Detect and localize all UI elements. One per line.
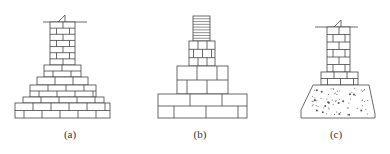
- aggregate-dot: [354, 88, 355, 89]
- aggregate-dot: [332, 99, 333, 100]
- figure-c-label: (c): [316, 128, 356, 140]
- aggregate-dot: [349, 93, 351, 95]
- brick-wall: [327, 27, 350, 72]
- aggregate-dot: [357, 108, 358, 109]
- aggregate-dot: [364, 89, 365, 90]
- aggregate-dot: [333, 89, 334, 90]
- column-outline: [193, 16, 210, 41]
- aggregate-dot: [362, 105, 363, 106]
- block-outline: [23, 97, 104, 103]
- aggregate-dot: [326, 113, 327, 114]
- aggregate-dot: [367, 100, 368, 101]
- aggregate-dot: [362, 100, 363, 101]
- aggregate-dot: [342, 100, 344, 102]
- stone-step-2: [177, 66, 228, 94]
- aggregate-dot: [336, 100, 337, 101]
- aggregate-dot: [365, 109, 366, 110]
- brick-step: [321, 72, 358, 85]
- hatched-column: [193, 16, 210, 41]
- figure-a-stepped-brick-foundation: [15, 15, 110, 118]
- aggregate-dot: [329, 108, 330, 109]
- stone-step-1: [189, 41, 215, 66]
- aggregate-dot: [340, 112, 341, 113]
- footing-step-3: [30, 85, 96, 97]
- aggregate-dot: [336, 94, 337, 95]
- aggregate-dot: [328, 107, 329, 108]
- aggregate-dot: [313, 104, 314, 105]
- aggregate-dot: [339, 90, 340, 91]
- figure-c-concrete-footing-foundation: [301, 20, 375, 118]
- aggregate-dot: [313, 101, 314, 102]
- figure-b-label: (b): [180, 128, 220, 140]
- aggregate-dot: [347, 114, 348, 115]
- aggregate-dot: [316, 89, 318, 91]
- aggregate-dot: [360, 109, 362, 111]
- footing-step-5: [15, 103, 110, 118]
- footing-step-1: [44, 65, 81, 77]
- aggregate-dot: [322, 111, 324, 113]
- aggregate-dot: [335, 101, 336, 102]
- figure-a-label: (a): [50, 128, 90, 140]
- figure-b-stone-stepped-foundation: [158, 16, 247, 118]
- aggregate-dot: [355, 95, 356, 96]
- aggregate-dot: [362, 91, 363, 92]
- aggregate-dot: [351, 92, 352, 93]
- aggregate-dot: [314, 99, 315, 100]
- aggregate-dot: [334, 93, 335, 94]
- aggregate-dot: [315, 99, 316, 100]
- brick-column: [50, 22, 75, 65]
- footing-step-4: [23, 97, 104, 103]
- aggregate-dot: [331, 88, 332, 89]
- concrete-footing: [301, 85, 375, 118]
- aggregate-dot: [333, 88, 334, 89]
- aggregate-dot: [312, 96, 313, 97]
- aggregate-dot: [324, 105, 326, 107]
- foundation-diagram: (a) (b) (c): [0, 0, 390, 154]
- aggregate-dot: [335, 93, 336, 94]
- aggregate-dot: [367, 114, 368, 115]
- aggregate-dot: [339, 99, 340, 100]
- stone-step-3: [158, 94, 247, 118]
- aggregate-dot: [361, 90, 362, 91]
- aggregate-dot: [316, 100, 317, 101]
- aggregate-dot: [338, 102, 340, 104]
- aggregate-dot: [321, 91, 323, 93]
- aggregate-dot: [321, 98, 322, 99]
- aggregate-dot: [350, 99, 351, 100]
- aggregate-dot: [338, 113, 340, 115]
- aggregate-dot: [336, 111, 337, 112]
- block-outline: [37, 77, 88, 85]
- aggregate-dot: [334, 114, 335, 115]
- aggregate-dot: [314, 97, 315, 98]
- aggregate-dot: [314, 90, 315, 91]
- aggregate-dot: [348, 114, 350, 116]
- aggregate-dot: [337, 91, 338, 92]
- aggregate-dot: [326, 99, 327, 100]
- aggregate-dot: [353, 93, 355, 95]
- aggregate-dot: [318, 106, 319, 107]
- aggregate-dot: [347, 107, 348, 108]
- footing-step-2: [37, 77, 88, 85]
- aggregate-dot: [327, 101, 329, 103]
- aggregate-dot: [364, 101, 365, 102]
- aggregate-dot: [312, 105, 313, 106]
- aggregate-dot: [363, 90, 364, 91]
- aggregate-dot: [348, 103, 349, 104]
- aggregate-dot: [323, 107, 324, 108]
- aggregate-dot: [316, 105, 317, 106]
- aggregate-dot: [333, 104, 334, 105]
- aggregate-dot: [316, 109, 318, 111]
- aggregate-dot: [328, 94, 329, 95]
